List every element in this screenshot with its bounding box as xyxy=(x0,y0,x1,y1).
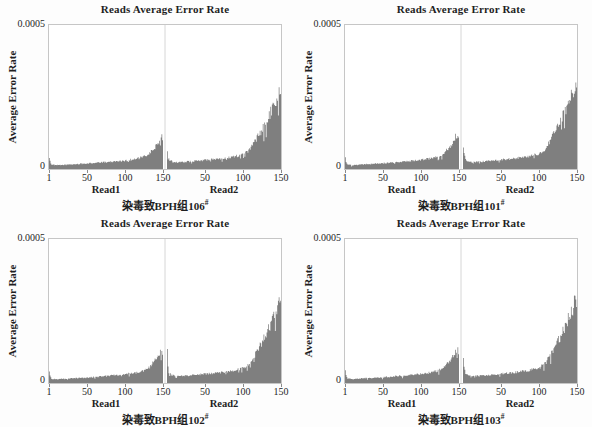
error-rate-svg xyxy=(345,25,577,169)
chart-title: Reads Average Error Rate xyxy=(344,3,578,15)
read2-axis-label: Read2 xyxy=(210,398,239,409)
caption-text: 染毒致BPH组103 xyxy=(418,414,501,426)
error-rate-area xyxy=(167,87,281,169)
error-rate-area xyxy=(49,350,163,383)
x-tick-label: 150 xyxy=(452,386,467,397)
x-tick-label: 150 xyxy=(570,172,585,183)
chart-title: Reads Average Error Rate xyxy=(48,217,282,229)
x-tick-label: 150 xyxy=(156,386,171,397)
caption-superscript: # xyxy=(205,198,209,207)
error-rate-svg xyxy=(49,239,281,383)
error-rate-area xyxy=(463,83,577,169)
caption-text: 染毒致BPH组101 xyxy=(418,200,501,212)
x-tick-label: 1 xyxy=(343,172,348,183)
error-rate-area xyxy=(49,134,163,169)
x-tick-label: 150 xyxy=(274,172,289,183)
x-tick-label: 1 xyxy=(47,172,52,183)
plot-area xyxy=(48,238,282,384)
plot-area xyxy=(344,24,578,170)
read1-axis-label: Read1 xyxy=(92,184,121,195)
read2-axis-label: Read2 xyxy=(210,184,239,195)
x-tick-label: 1 xyxy=(343,386,348,397)
x-tick-label: 100 xyxy=(236,172,251,183)
error-rate-area xyxy=(345,134,459,169)
x-tick-label: 50 xyxy=(200,386,210,397)
chart-title: Reads Average Error Rate xyxy=(48,3,282,15)
x-tick-label: 100 xyxy=(118,172,133,183)
y-axis-title: Average Error Rate xyxy=(6,238,20,384)
read1-axis-label: Read1 xyxy=(388,184,417,195)
x-tick-label: 100 xyxy=(236,386,251,397)
x-tick-label: 150 xyxy=(274,386,289,397)
error-rate-svg xyxy=(49,25,281,169)
panel-bph-103: Reads Average Error Rate 0.0005 0 Averag… xyxy=(296,214,592,427)
x-tick-label: 100 xyxy=(414,172,429,183)
panel-caption: 染毒致BPH组103# xyxy=(344,411,578,427)
read1-axis-label: Read1 xyxy=(388,398,417,409)
caption-text: 染毒致BPH组106 xyxy=(122,200,205,212)
error-rate-area xyxy=(345,347,459,383)
x-tick-label: 50 xyxy=(378,172,388,183)
plot-area xyxy=(344,238,578,384)
x-tick-label: 50 xyxy=(496,172,506,183)
x-tick-label: 50 xyxy=(82,172,92,183)
caption-superscript: # xyxy=(501,198,505,207)
panel-caption: 染毒致BPH组102# xyxy=(48,411,282,427)
x-tick-label: 50 xyxy=(82,386,92,397)
panel-bph-106: Reads Average Error Rate 0.0005 0 Averag… xyxy=(0,0,296,214)
x-tick-label: 150 xyxy=(570,386,585,397)
caption-text: 染毒致BPH组102 xyxy=(122,414,205,426)
caption-superscript: # xyxy=(501,412,505,421)
y-axis-title: Average Error Rate xyxy=(6,24,20,170)
panel-caption: 染毒致BPH组106# xyxy=(48,197,282,213)
read1-axis-label: Read1 xyxy=(92,398,121,409)
x-tick-label: 50 xyxy=(496,386,506,397)
panel-bph-101: Reads Average Error Rate 0.0005 0 Averag… xyxy=(296,0,592,214)
read2-axis-label: Read2 xyxy=(506,184,535,195)
x-tick-label: 150 xyxy=(156,172,171,183)
chart-title: Reads Average Error Rate xyxy=(344,217,578,229)
caption-superscript: # xyxy=(205,412,209,421)
x-tick-label: 100 xyxy=(414,386,429,397)
read2-axis-label: Read2 xyxy=(506,398,535,409)
x-tick-label: 1 xyxy=(47,386,52,397)
error-rate-svg xyxy=(345,239,577,383)
y-axis-title: Average Error Rate xyxy=(302,238,316,384)
error-rate-area xyxy=(167,297,281,383)
x-tick-label: 50 xyxy=(378,386,388,397)
x-tick-label: 50 xyxy=(200,172,210,183)
x-tick-label: 100 xyxy=(532,172,547,183)
error-rate-area xyxy=(463,295,577,383)
y-axis-title: Average Error Rate xyxy=(302,24,316,170)
x-tick-label: 100 xyxy=(118,386,133,397)
x-tick-label: 150 xyxy=(452,172,467,183)
x-tick-label: 100 xyxy=(532,386,547,397)
figure-grid: Reads Average Error Rate 0.0005 0 Averag… xyxy=(0,0,592,427)
panel-caption: 染毒致BPH组101# xyxy=(344,197,578,213)
panel-bph-102: Reads Average Error Rate 0.0005 0 Averag… xyxy=(0,214,296,427)
plot-area xyxy=(48,24,282,170)
